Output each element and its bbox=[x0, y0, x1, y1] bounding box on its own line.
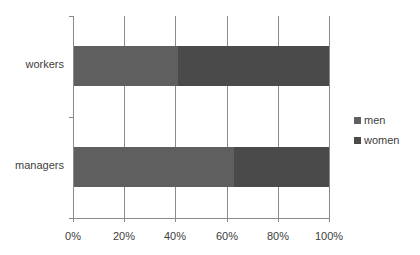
bar-workers bbox=[73, 46, 329, 86]
x-tick bbox=[278, 218, 279, 222]
x-tick bbox=[73, 218, 74, 222]
bar-segment-managers-men bbox=[73, 147, 234, 187]
legend-swatch-men bbox=[354, 117, 361, 124]
plot-area bbox=[73, 16, 329, 218]
x-tick bbox=[227, 218, 228, 222]
category-label-workers: workers bbox=[25, 58, 64, 70]
legend: men women bbox=[354, 110, 399, 150]
x-tick bbox=[124, 218, 125, 222]
legend-item-women: women bbox=[354, 130, 399, 150]
x-tick-label: 100% bbox=[315, 230, 343, 242]
x-axis bbox=[73, 218, 330, 219]
bar-segment-workers-men bbox=[73, 46, 178, 86]
x-tick-label: 20% bbox=[113, 230, 135, 242]
x-tick-label: 0% bbox=[65, 230, 81, 242]
x-tick bbox=[329, 218, 330, 222]
legend-label-women: women bbox=[364, 134, 399, 146]
x-tick bbox=[175, 218, 176, 222]
x-tick-label: 80% bbox=[267, 230, 289, 242]
legend-item-men: men bbox=[354, 110, 399, 130]
legend-label-men: men bbox=[364, 114, 385, 126]
legend-swatch-women bbox=[354, 137, 361, 144]
y-tick bbox=[69, 117, 73, 118]
x-tick-label: 60% bbox=[216, 230, 238, 242]
bar-segment-managers-women bbox=[234, 147, 329, 187]
x-tick-label: 40% bbox=[164, 230, 186, 242]
bar-managers bbox=[73, 147, 329, 187]
gridline-100 bbox=[329, 16, 330, 218]
category-label-managers: managers bbox=[15, 159, 64, 171]
y-tick bbox=[69, 16, 73, 17]
bar-segment-workers-women bbox=[178, 46, 329, 86]
y-axis bbox=[73, 16, 74, 218]
